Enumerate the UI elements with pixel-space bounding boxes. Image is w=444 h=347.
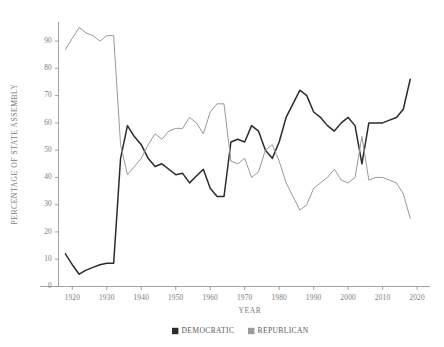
y-tick-label: 60: [44, 118, 52, 127]
y-tick-label: 10: [44, 254, 52, 263]
y-axis-ticks: 0102030405060708090: [44, 36, 58, 290]
legend-label-democratic: DEMOCRATIC: [182, 326, 235, 335]
x-tick-label: 2020: [409, 293, 425, 302]
y-tick-label: 0: [48, 281, 52, 290]
y-tick-label: 20: [44, 227, 52, 236]
legend-label-republican: REPUBLICAN: [258, 326, 309, 335]
legend-swatch-republican: [248, 328, 254, 334]
x-tick-label: 1930: [99, 293, 115, 302]
y-tick-label: 80: [44, 63, 52, 72]
x-tick-label: 1950: [168, 293, 184, 302]
x-tick-label: 1920: [64, 293, 80, 302]
x-tick-label: 1960: [202, 293, 218, 302]
x-axis-ticks: 1920193019401950196019701980199020002010…: [64, 287, 424, 303]
x-tick-label: 1940: [133, 293, 149, 302]
chart-legend: DEMOCRATICREPUBLICAN: [172, 326, 309, 335]
y-axis-title: PERCENTAGE OF STATE ASSEMBLY: [10, 83, 19, 224]
x-tick-label: 2010: [375, 293, 391, 302]
x-axis-title: YEAR: [239, 306, 262, 315]
series-line-democratic: [65, 79, 410, 274]
y-tick-label: 90: [44, 36, 52, 45]
legend-swatch-democratic: [172, 328, 178, 334]
x-tick-label: 1970: [237, 293, 253, 302]
chart-container: 0102030405060708090 19201930194019501960…: [0, 0, 444, 347]
x-tick-label: 1990: [306, 293, 322, 302]
x-tick-label: 1980: [271, 293, 287, 302]
x-tick-label: 2000: [340, 293, 356, 302]
series-lines: [65, 27, 410, 274]
y-tick-label: 30: [44, 199, 52, 208]
y-tick-label: 70: [44, 90, 52, 99]
series-line-republican: [65, 27, 410, 218]
y-tick-label: 40: [44, 172, 52, 181]
line-chart: 0102030405060708090 19201930194019501960…: [0, 0, 444, 347]
y-tick-label: 50: [44, 145, 52, 154]
